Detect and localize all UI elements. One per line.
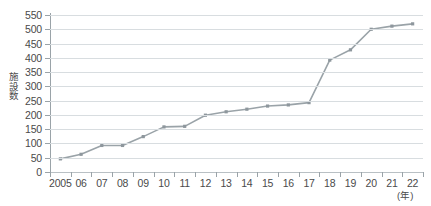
line-chart: 施設数 (年) 05010015020025030035040045050055… (0, 0, 431, 206)
gridline (50, 115, 423, 116)
y-axis-tick-label: 300 (0, 81, 42, 92)
x-axis-tick (257, 172, 258, 177)
x-axis-tick (133, 172, 134, 177)
data-point-marker (142, 135, 145, 138)
x-axis-tick (112, 172, 113, 177)
gridline (50, 101, 423, 102)
y-axis-tick (45, 101, 50, 102)
data-point-marker (162, 125, 165, 128)
data-point-marker (225, 110, 228, 113)
x-axis-tick (402, 172, 403, 177)
y-axis-tick-label: 400 (0, 53, 42, 64)
x-axis-tick (299, 172, 300, 177)
x-axis-tick (237, 172, 238, 177)
x-axis-tick (361, 172, 362, 177)
gridline (50, 158, 423, 159)
gridline (50, 143, 423, 144)
y-axis-tick (45, 58, 50, 59)
x-axis-tick (216, 172, 217, 177)
y-axis-tick-label: 50 (0, 153, 42, 164)
gridline (50, 72, 423, 73)
y-axis-tick-label: 200 (0, 110, 42, 121)
data-point-marker (79, 153, 82, 156)
x-axis-tick (91, 172, 92, 177)
x-axis-unit-label: (年) (397, 191, 413, 201)
y-axis-tick-label: 450 (0, 39, 42, 50)
x-axis-tick (154, 172, 155, 177)
x-axis-tick (382, 172, 383, 177)
x-axis-tick-label: 22 (399, 178, 427, 189)
gridline (50, 29, 423, 30)
y-axis-tick-label: 550 (0, 10, 42, 21)
gridline (50, 44, 423, 45)
data-point-marker (390, 25, 393, 28)
y-axis-tick (45, 72, 50, 73)
gridline (50, 58, 423, 59)
y-axis-tick (45, 29, 50, 30)
data-point-marker (266, 104, 269, 107)
y-axis-tick-label: 500 (0, 24, 42, 35)
gridline (50, 15, 423, 16)
y-axis-tick-label: 350 (0, 67, 42, 78)
y-axis-tick-label: 150 (0, 124, 42, 135)
x-axis-tick (278, 172, 279, 177)
chart-page: 施設数 (年) 05010015020025030035040045050055… (0, 0, 431, 206)
x-axis-tick (340, 172, 341, 177)
data-point-marker (411, 22, 414, 25)
y-axis-tick (45, 115, 50, 116)
data-point-marker (349, 48, 352, 51)
y-axis-tick (45, 44, 50, 45)
gridline (50, 129, 423, 130)
y-axis-tick-label: 0 (0, 167, 42, 178)
data-point-marker (287, 103, 290, 106)
data-point-marker (245, 108, 248, 111)
y-axis-tick-label: 100 (0, 138, 42, 149)
y-axis-tick (45, 158, 50, 159)
y-axis-tick (45, 143, 50, 144)
x-axis-tick (195, 172, 196, 177)
y-axis-tick-label: 250 (0, 96, 42, 107)
x-axis-tick (319, 172, 320, 177)
y-axis-tick (45, 129, 50, 130)
data-point-marker (328, 59, 331, 62)
x-axis-tick (174, 172, 175, 177)
gridline (50, 86, 423, 87)
y-axis-tick (45, 15, 50, 16)
data-point-marker (183, 125, 186, 128)
y-axis-tick (45, 86, 50, 87)
x-axis-tick (423, 172, 424, 177)
